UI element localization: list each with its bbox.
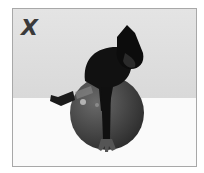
photo-frame: X bbox=[12, 8, 197, 167]
exercise-figure-illustration bbox=[13, 9, 196, 166]
x-mark-icon: X bbox=[21, 17, 38, 39]
